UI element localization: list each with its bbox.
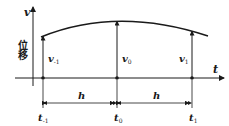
point-t-zero: [115, 76, 119, 80]
value-label-prev: v-1: [48, 53, 60, 65]
x-axis-label: t: [213, 63, 218, 76]
displacement-diagram: v 位移 t v-1 v0 v1 h h t-1 t0 t1: [0, 0, 229, 126]
point-t-prev: [41, 76, 45, 80]
interval-label-2: h: [153, 90, 160, 101]
value-label-next: v1: [179, 53, 189, 65]
interval-label-1: h: [78, 90, 85, 101]
svg-text:位移: 位移: [17, 39, 28, 61]
value-label-zero: v0: [122, 53, 132, 65]
point-t-next: [190, 76, 194, 80]
displacement-curve: [41, 21, 208, 37]
displacement-side-label: 位移: [17, 39, 28, 61]
time-label-next: t1: [189, 112, 197, 124]
time-label-prev: t-1: [38, 112, 48, 124]
time-label-zero: t0: [114, 112, 123, 124]
y-axis-label: v: [24, 6, 31, 19]
